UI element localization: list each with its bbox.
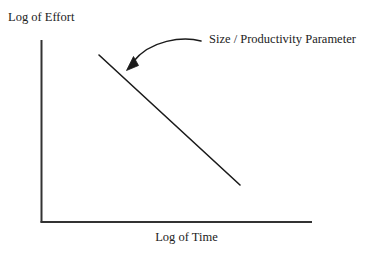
annotation-arrow-curve [133, 39, 201, 62]
figure-graphics [0, 0, 373, 260]
figure-canvas: Log of Effort Log of Time Size / Product… [0, 0, 373, 260]
data-line-size-productivity [99, 55, 240, 185]
